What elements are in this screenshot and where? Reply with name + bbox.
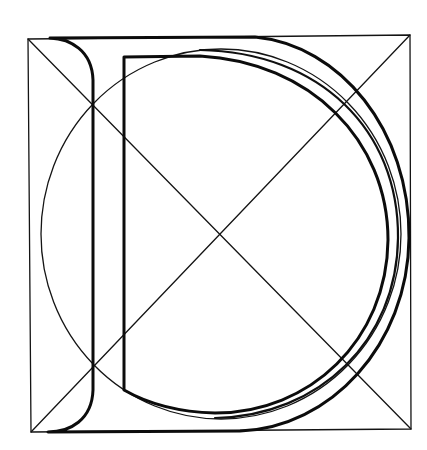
diagram-canvas (0, 0, 427, 450)
letter-d-construction-diagram: Construction of the letter D (0, 0, 427, 450)
diagonal-bl-tr (31, 35, 410, 432)
